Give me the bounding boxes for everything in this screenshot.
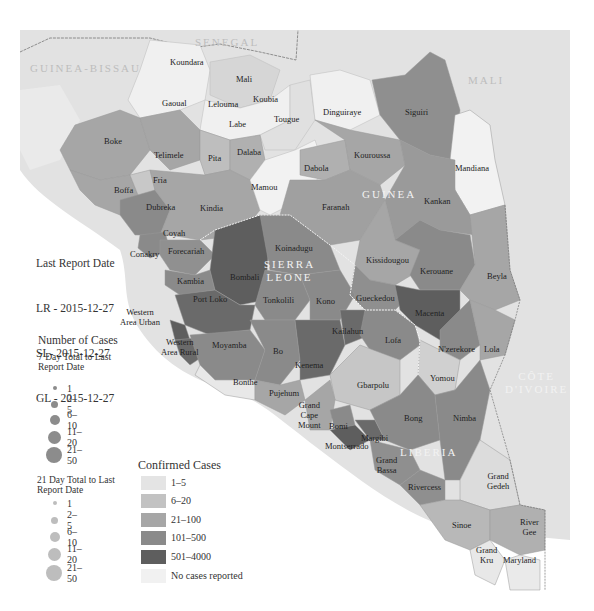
legend-confirmed-4-label: 101–500 — [171, 531, 206, 545]
swatch-21-100 — [141, 513, 166, 527]
legend-21day-5-label: 21–50 — [67, 562, 82, 584]
label-kankan: Kankan — [424, 196, 450, 206]
label-kindia: Kindia — [200, 203, 223, 213]
label-senegal: SENEGAL — [195, 36, 259, 49]
label-guinea-bissau: GUINEA-BISSAU — [30, 62, 141, 75]
label-dabola: Dabola — [304, 163, 329, 173]
label-pita: Pita — [208, 153, 221, 163]
label-tougue: Tougue — [274, 114, 299, 124]
label-telimele: Telimele — [154, 150, 184, 160]
label-macenta: Macenta — [415, 308, 444, 318]
label-boke: Boke — [104, 136, 122, 146]
label-gaoual: Gaoual — [162, 98, 187, 108]
label-rivercess: Rivercess — [408, 482, 441, 492]
label-moyamba: Moyamba — [212, 340, 246, 350]
number-of-cases-title: Number of Cases — [38, 334, 118, 346]
label-liberia: LIBERIA — [400, 446, 457, 459]
label-lelouma: Lelouma — [208, 99, 238, 109]
label-lofa: Lofa — [385, 335, 401, 345]
label-mali: MALI — [468, 74, 504, 87]
label-kenema: Kenema — [295, 360, 323, 370]
legend-21day-5: 21–50 — [45, 565, 75, 581]
legend-confirmed-2-label: 6–20 — [171, 494, 191, 508]
legend-7day-1-label: 1 — [67, 383, 72, 394]
legend-7day-4: 11–20 — [45, 430, 75, 444]
swatch-6-20 — [141, 494, 166, 508]
confirmed-cases-title: Confirmed Cases — [138, 458, 221, 473]
label-port-loko: Port Loko — [193, 294, 227, 304]
label-river-gee: River Gee — [520, 517, 539, 537]
label-mamou: Mamou — [251, 182, 277, 192]
label-kambia: Kambia — [177, 276, 204, 286]
legend-21day-1: 1 — [45, 499, 75, 507]
label-kouroussa: Kouroussa — [354, 150, 390, 160]
dot-icon — [51, 401, 58, 408]
label-western-area-urban: Western Area Urban — [120, 307, 160, 327]
dot-icon — [53, 386, 57, 390]
dot-icon — [48, 548, 61, 561]
legend-confirmed-5-label: 501–4000 — [171, 550, 211, 564]
label-sinoe: Sinoe — [452, 520, 471, 530]
label-pujehun: Pujehum — [269, 388, 299, 398]
label-kerouane: Kerouane — [420, 266, 453, 276]
label-gbarpolu: Gbarpolu — [357, 380, 389, 390]
label-sierra-leone: SIERRA LEONE — [264, 258, 315, 284]
label-bong: Bong — [404, 413, 422, 423]
dot-icon — [53, 501, 57, 505]
label-bo: Bo — [273, 346, 283, 356]
label-mandiana: Mandiana — [455, 163, 489, 173]
label-dinguiraye: Dinguiraye — [323, 107, 361, 117]
label-dalaba: Dalaba — [237, 147, 261, 157]
swatch-no-cases — [141, 569, 166, 583]
label-lola: Lola — [484, 344, 500, 354]
label-kissidougou: Kissidougou — [366, 255, 409, 265]
label-conakry: Conakry — [130, 249, 159, 259]
dot-icon — [46, 565, 62, 581]
last-report-title: Last Report Date — [36, 256, 115, 271]
label-bonthe: Bonthe — [233, 377, 258, 387]
label-forecariah: Forecariah — [168, 246, 204, 256]
label-grand-cape-mount: Grand Cape Mount — [298, 400, 321, 430]
label-dubreka: Dubreka — [146, 202, 175, 212]
label-kailahun: Kailahun — [332, 326, 363, 336]
label-grand-bassa: Grand Bassa — [376, 455, 397, 475]
label-koinadugu: Koinadugu — [275, 243, 313, 253]
label-koubia: Koubia — [253, 94, 278, 104]
label-koundara: Koundara — [170, 57, 204, 67]
legend-21day-3: 6–10 — [45, 531, 75, 543]
legend-7day-2: 2–5 — [45, 399, 75, 409]
dot-icon — [46, 447, 62, 463]
swatch-1-5 — [141, 476, 166, 490]
label-siguiri: Siguiri — [405, 107, 428, 117]
seven-day-title: 7 Day Total to Last Report Date — [38, 352, 111, 372]
legend-confirmed-1-label: 1–5 — [171, 476, 186, 490]
label-cote-divoire: CÔTE D'IVOIRE — [505, 370, 568, 396]
label-tonkolili: Tonkolili — [263, 295, 294, 305]
label-grand-gedeh: Grand Gedeh — [487, 471, 509, 491]
label-grand-kru: Grand Kru — [476, 545, 497, 565]
last-report-lr: LR - 2015-12-27 — [36, 301, 115, 316]
label-fria: Fria — [153, 175, 167, 185]
legend-7day-3: 6–10 — [45, 414, 75, 426]
label-gueckedou: Gueckedou — [356, 293, 395, 303]
label-mali-prefecture: Mali — [236, 74, 252, 84]
legend-7day-5: 21–50 — [45, 447, 75, 463]
label-maryland: Maryland — [503, 555, 536, 565]
label-bombali: Bombali — [230, 272, 259, 282]
legend-7day-5-label: 21–50 — [67, 444, 82, 466]
dot-icon — [50, 532, 60, 542]
legend-21day-1-label: 1 — [67, 498, 72, 509]
label-bomi: Bomi — [329, 421, 348, 431]
label-nimba: Nimba — [453, 413, 476, 423]
legend-21day-2: 2–5 — [45, 515, 75, 525]
label-boffa: Boffa — [114, 185, 133, 195]
label-faranah: Faranah — [322, 202, 349, 212]
label-nzerekore: N'zerekore — [438, 344, 475, 354]
legend-21day-4: 11–20 — [45, 547, 75, 561]
legend-7day-1: 1 — [45, 384, 75, 392]
label-coyah: Coyah — [163, 228, 185, 238]
twentyone-day-title: 21 Day Total to Last Report Date — [37, 475, 115, 495]
dot-icon — [51, 517, 58, 524]
dot-icon — [50, 415, 60, 425]
label-guinea: GUINEA — [362, 188, 416, 201]
